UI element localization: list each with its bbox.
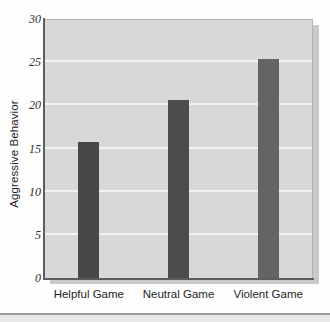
bar-neutral-game: [168, 100, 189, 278]
bar-chart-figure: 051015202530 Aggressive Behavior Helpful…: [0, 0, 330, 322]
y-axis-title: Aggressive Behavior: [8, 84, 20, 224]
y-axis-line: [43, 18, 45, 280]
bar-helpful-game: [78, 142, 99, 278]
page-bottom-strip: [0, 313, 330, 322]
x-axis-tick-label: Violent Game: [208, 288, 328, 300]
y-axis-tick-label: 25: [3, 56, 41, 68]
y-axis-tick-label: 5: [3, 229, 41, 241]
x-axis-line: [43, 278, 314, 280]
plot-area: [44, 19, 313, 278]
bar-violent-game: [258, 59, 279, 278]
y-axis-tick-label: 30: [3, 13, 41, 25]
y-axis-tick-label: 0: [3, 272, 41, 284]
y-axis-tick-labels: 051015202530: [0, 0, 41, 322]
